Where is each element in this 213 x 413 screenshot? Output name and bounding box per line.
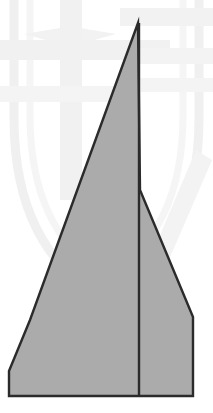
watermark-band-right-middle	[130, 48, 213, 64]
watermark-band-right-upper	[120, 8, 213, 26]
figure-canvas	[0, 0, 213, 413]
watermark-band-right-lower	[140, 78, 213, 92]
airplane-planform-figure	[0, 0, 213, 413]
